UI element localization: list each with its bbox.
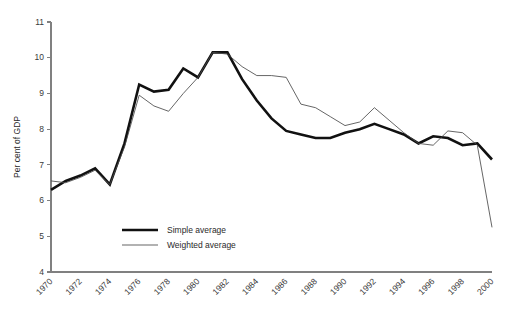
y-tick-label: 9 [39, 88, 44, 98]
x-axis: 1970197219741976197819801982198419861988… [34, 272, 496, 297]
legend-label-weighted-average: Weighted average [167, 240, 236, 250]
x-tick-label: 1996 [416, 276, 437, 297]
x-tick-label: 1992 [357, 276, 378, 297]
x-tick-label: 2000 [475, 276, 496, 297]
line-chart: 4567891011 19701972197419761978198019821… [0, 0, 515, 310]
x-tick-label: 1990 [328, 276, 349, 297]
x-tick-label: 1994 [387, 276, 408, 297]
x-tick-label: 1974 [93, 276, 114, 297]
y-axis-title: Per cent of GDP [12, 116, 22, 178]
y-tick-label: 5 [39, 231, 44, 241]
x-tick-label: 1988 [299, 276, 320, 297]
chart-legend: Simple averageWeighted average [122, 225, 236, 250]
x-tick-label: 1970 [34, 276, 55, 297]
x-tick-label: 1986 [269, 276, 290, 297]
y-tick-label: 6 [39, 195, 44, 205]
y-tick-label: 7 [39, 160, 44, 170]
y-tick-label: 11 [35, 17, 44, 27]
x-tick-label: 1976 [122, 276, 143, 297]
y-tick-label: 4 [39, 267, 44, 277]
chart-series-group [51, 52, 492, 227]
x-tick-label: 1998 [446, 276, 467, 297]
chart-container: 4567891011 19701972197419761978198019821… [0, 0, 515, 310]
y-axis: 4567891011 [35, 17, 51, 277]
y-tick-label: 8 [39, 124, 44, 134]
x-tick-label: 1978 [152, 276, 173, 297]
legend-label-simple-average: Simple average [167, 225, 226, 235]
y-tick-label: 10 [35, 52, 45, 62]
x-tick-label: 1980 [181, 276, 202, 297]
x-tick-label: 1982 [210, 276, 231, 297]
series-line-simple-average [51, 52, 492, 190]
x-tick-label: 1972 [63, 276, 84, 297]
x-tick-label: 1984 [240, 276, 261, 297]
